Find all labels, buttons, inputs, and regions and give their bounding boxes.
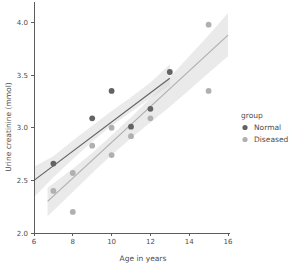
- x-tick-label: 6: [32, 238, 37, 246]
- y-tick-label: 4.0: [17, 19, 28, 27]
- y-tick-label: 2.5: [17, 177, 28, 185]
- data-point-diseased: [206, 22, 212, 28]
- x-tick-label: 10: [107, 238, 116, 246]
- data-point-normal: [109, 88, 115, 94]
- legend-label-normal[interactable]: Normal: [254, 123, 281, 132]
- x-tick-label: 8: [71, 238, 75, 246]
- legend-title: group: [241, 111, 263, 120]
- x-axis-title: Age in years: [120, 254, 167, 263]
- data-point-normal: [89, 115, 95, 121]
- data-point-diseased: [206, 88, 212, 94]
- legend-marker-diseased[interactable]: [242, 137, 247, 142]
- data-point-normal: [148, 106, 154, 112]
- data-point-diseased: [109, 152, 115, 158]
- y-tick-label: 3.5: [17, 72, 28, 80]
- x-tick-label: 16: [224, 238, 233, 246]
- y-tick-label: 3.0: [17, 124, 28, 132]
- legend: groupNormalDiseased: [241, 111, 288, 144]
- data-point-normal: [128, 124, 134, 130]
- x-tick-label: 12: [146, 238, 155, 246]
- data-point-normal: [167, 69, 173, 75]
- data-point-diseased: [148, 115, 154, 121]
- scatter-plot-svg: 2.02.53.03.54.06810121416 Age in years U…: [0, 0, 307, 267]
- data-point-diseased: [109, 125, 115, 131]
- data-point-diseased: [70, 170, 76, 176]
- ci-bands-layer: [34, 13, 228, 216]
- data-point-diseased: [128, 133, 134, 139]
- x-tick-label: 14: [185, 238, 194, 246]
- data-point-diseased: [51, 188, 57, 194]
- data-point-normal: [51, 161, 57, 167]
- regression-line-diseased: [48, 35, 228, 201]
- legend-marker-normal[interactable]: [242, 125, 247, 130]
- data-point-diseased: [70, 209, 76, 215]
- confidence-band-normal: [34, 65, 170, 198]
- y-axis-title: Urine creatinine (mmol): [4, 82, 13, 171]
- confidence-band-diseased: [48, 13, 228, 216]
- legend-label-diseased[interactable]: Diseased: [254, 135, 288, 144]
- chart-container: 2.02.53.03.54.06810121416 Age in years U…: [0, 0, 307, 267]
- data-point-diseased: [89, 143, 95, 149]
- y-tick-label: 2.0: [17, 230, 28, 238]
